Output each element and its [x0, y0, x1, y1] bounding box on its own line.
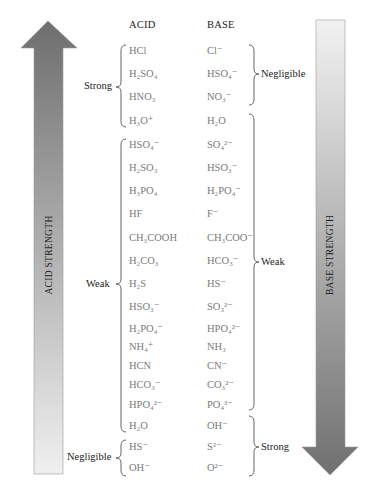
- acid-cell: CH₃COOH: [129, 233, 177, 244]
- acid-cell: H₂CO₃: [129, 256, 159, 267]
- base-group-strong-label: Strong: [261, 442, 289, 453]
- acid-cell: H₂SO₃: [129, 163, 157, 174]
- acid-cell: OH⁻: [129, 463, 150, 474]
- base-cell: NH₃: [207, 342, 226, 353]
- base-cell: H₂PO₄⁻: [207, 186, 241, 197]
- acid-cell: HNO₃: [129, 92, 155, 103]
- brace-acid-strong: [116, 45, 126, 127]
- acid-cell: H₂PO₄⁻: [129, 324, 163, 335]
- acid-cell: HCl: [129, 46, 147, 57]
- acid-cell: H₂O: [129, 421, 148, 432]
- acid-cell: H₃O⁺: [129, 116, 153, 127]
- base-strength-label: BASE STRENGTH: [325, 213, 335, 297]
- acid-group-weak-label: Weak: [86, 279, 110, 290]
- brace-base-negligible: [249, 45, 259, 105]
- acid-cell: H₂S: [129, 279, 146, 290]
- base-cell: OH⁻: [207, 421, 228, 432]
- base-braces: [249, 45, 259, 476]
- brace-acid-weak: [116, 139, 126, 432]
- base-cell: CH₃COO⁻: [207, 233, 253, 244]
- brace-base-strong: [249, 416, 259, 476]
- base-cell: NO₃⁻: [207, 92, 231, 103]
- acid-group-strong-label: Strong: [84, 81, 112, 92]
- base-cell: S²⁻: [207, 442, 222, 453]
- base-cell: HSO₃⁻: [207, 163, 237, 174]
- base-cell: Cl⁻: [207, 46, 222, 57]
- acid-cell: HCN: [129, 361, 151, 372]
- base-cell: HS⁻: [207, 279, 226, 290]
- base-cell: F⁻: [207, 209, 218, 220]
- acid-cell: NH₄⁺: [129, 342, 153, 353]
- acid-cell: H₃PO₄: [129, 186, 157, 197]
- brace-base-weak: [249, 114, 259, 410]
- acid-strength-label: ACID STRENGTH: [44, 214, 54, 296]
- diagram-graphics: [0, 0, 375, 495]
- acid-cell: HS⁻: [129, 442, 148, 453]
- acid-group-negligible-label: Negligible: [67, 452, 111, 463]
- base-cell: H₂O: [207, 116, 226, 127]
- acid-cell: H₂SO₄: [129, 69, 157, 80]
- base-cell: CO₃²⁻: [207, 380, 234, 391]
- base-group-negligible-label: Negligible: [261, 69, 305, 80]
- base-cell: PO₄³⁻: [207, 400, 233, 411]
- base-cell: HCO₃⁻: [207, 256, 238, 267]
- brace-acid-negligible: [116, 440, 126, 476]
- base-cell: CN⁻: [207, 361, 227, 372]
- base-column-header: BASE: [207, 19, 235, 30]
- acid-cell: HSO₃⁻: [129, 302, 159, 313]
- acid-cell: HSO₄⁻: [129, 140, 159, 151]
- acid-braces: [116, 45, 126, 476]
- acid-cell: HF: [129, 209, 142, 220]
- acid-column-header: ACID: [129, 19, 155, 30]
- base-cell: HSO₄⁻: [207, 69, 237, 80]
- base-cell: O²⁻: [207, 463, 223, 474]
- acid-cell: HPO₄²⁻: [129, 400, 162, 411]
- base-cell: SO₄²⁻: [207, 140, 233, 151]
- base-cell: SO₃²⁻: [207, 302, 233, 313]
- acid-cell: HCO₃⁻: [129, 380, 160, 391]
- base-group-weak-label: Weak: [261, 257, 285, 268]
- base-cell: HPO₄²⁻: [207, 324, 240, 335]
